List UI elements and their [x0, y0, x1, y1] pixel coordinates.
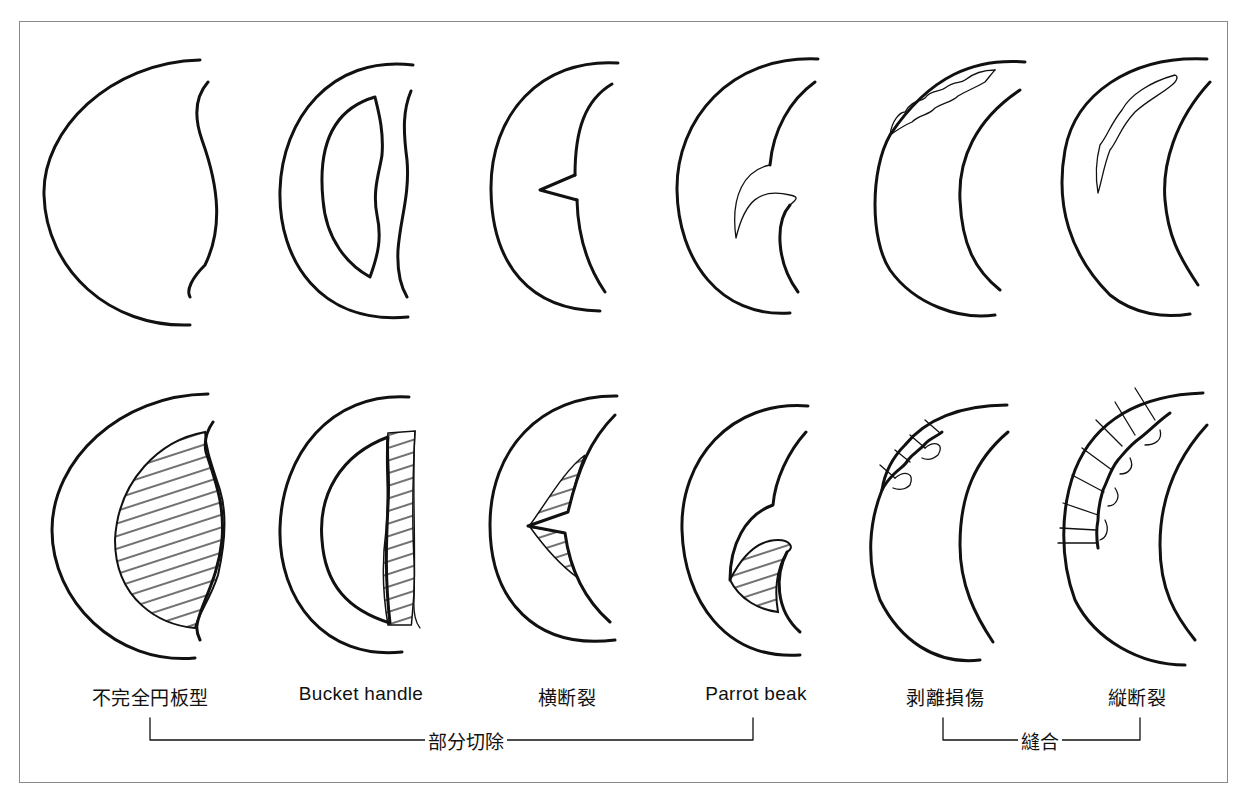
- figure-bucket-handle-resection: [280, 397, 420, 653]
- figure-parrot-beak-resection: [682, 406, 808, 656]
- figure-parrot-beak-tear: [677, 59, 818, 313]
- label-bucket-handle: Bucket handle: [299, 683, 423, 705]
- suture-stitches: [1058, 388, 1161, 543]
- label-longitudinal: 縦断裂: [1108, 683, 1167, 710]
- figure-transverse-tear: [491, 63, 618, 311]
- figure-transverse-resection: [490, 396, 617, 641]
- figure-detachment-suture: [871, 405, 1008, 661]
- group-label-suture: 縫合: [1018, 727, 1062, 754]
- figure-longitudinal-tear: [1062, 59, 1210, 316]
- figure-discoid-resection: [52, 394, 224, 659]
- figure-bucket-handle-tear: [280, 64, 413, 318]
- meniscus-tear-diagram: [0, 0, 1250, 799]
- label-transverse: 横断裂: [538, 683, 597, 710]
- group-label-partial-resection: 部分切除: [425, 727, 507, 754]
- figure-discoid-tear: [44, 60, 217, 325]
- label-discoid: 不完全円板型: [92, 683, 209, 710]
- figure-longitudinal-suture: [1058, 388, 1207, 665]
- label-detachment: 剥離損傷: [906, 683, 984, 710]
- figure-detachment-tear: [875, 61, 1025, 315]
- label-parrot-beak: Parrot beak: [705, 683, 807, 705]
